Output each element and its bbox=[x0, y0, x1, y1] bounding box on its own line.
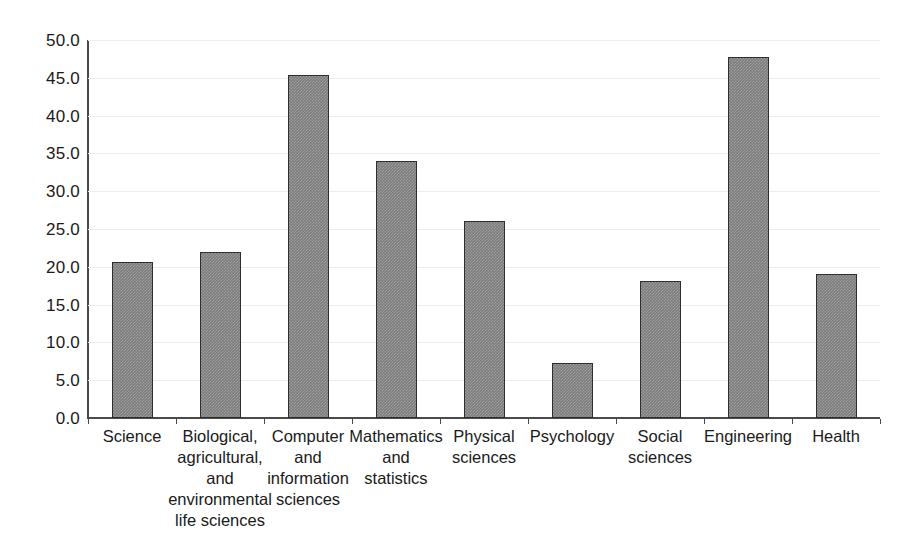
x-label-line: Psychology bbox=[530, 427, 614, 445]
bar-chart: 50.045.040.035.030.025.020.015.010.05.00… bbox=[0, 0, 916, 538]
bar[interactable] bbox=[288, 75, 329, 418]
bar[interactable] bbox=[552, 363, 593, 418]
x-label-line: Biological, bbox=[182, 427, 257, 445]
x-label-line: sciences bbox=[276, 490, 340, 508]
x-tick bbox=[616, 419, 617, 424]
x-tick bbox=[264, 419, 265, 424]
y-tick-label: 15.0 bbox=[46, 296, 80, 313]
x-axis-ticks bbox=[88, 419, 880, 425]
y-tick-label: 40.0 bbox=[46, 107, 80, 124]
y-tick-label: 25.0 bbox=[46, 221, 80, 238]
bar[interactable] bbox=[112, 262, 153, 418]
y-tick-label: 30.0 bbox=[46, 183, 80, 200]
x-label-line: sciences bbox=[452, 448, 516, 466]
bar[interactable] bbox=[464, 221, 505, 418]
x-category-label: Health bbox=[779, 426, 893, 447]
x-tick bbox=[528, 419, 529, 424]
y-tick-label: 0.0 bbox=[56, 410, 80, 427]
x-tick bbox=[704, 419, 705, 424]
x-label-line: information bbox=[267, 469, 349, 487]
y-tick-label: 45.0 bbox=[46, 69, 80, 86]
x-tick bbox=[176, 419, 177, 424]
x-tick bbox=[440, 419, 441, 424]
x-label-line: sciences bbox=[628, 448, 692, 466]
bar[interactable] bbox=[816, 274, 857, 418]
plot-area bbox=[88, 40, 880, 418]
x-tick bbox=[88, 419, 89, 424]
y-axis-tick-labels: 50.045.040.035.030.025.020.015.010.05.00… bbox=[0, 40, 80, 418]
bar[interactable] bbox=[640, 281, 681, 418]
y-tick-label: 50.0 bbox=[46, 32, 80, 49]
x-label-line: Health bbox=[812, 427, 860, 445]
x-label-line: agricultural, bbox=[177, 448, 262, 466]
x-label-line: Physical bbox=[453, 427, 514, 445]
x-label-line: Computer bbox=[272, 427, 344, 445]
x-label-line: and bbox=[294, 448, 322, 466]
x-label-line: and bbox=[206, 469, 234, 487]
y-tick-label: 20.0 bbox=[46, 258, 80, 275]
bars-layer bbox=[88, 40, 880, 418]
x-label-line: Science bbox=[103, 427, 162, 445]
x-label-line: life sciences bbox=[175, 511, 265, 529]
bar[interactable] bbox=[200, 252, 241, 418]
x-tick bbox=[880, 419, 881, 424]
x-label-line: Social bbox=[638, 427, 683, 445]
y-tick-label: 35.0 bbox=[46, 145, 80, 162]
bar[interactable] bbox=[728, 57, 769, 418]
x-axis-category-labels: ScienceBiological,agricultural,andenviro… bbox=[88, 426, 880, 538]
bar[interactable] bbox=[376, 161, 417, 418]
y-tick-label: 5.0 bbox=[56, 372, 80, 389]
y-tick-label: 10.0 bbox=[46, 334, 80, 351]
x-label-line: statistics bbox=[364, 469, 427, 487]
x-tick bbox=[792, 419, 793, 424]
x-label-line: and bbox=[382, 448, 410, 466]
x-tick bbox=[352, 419, 353, 424]
